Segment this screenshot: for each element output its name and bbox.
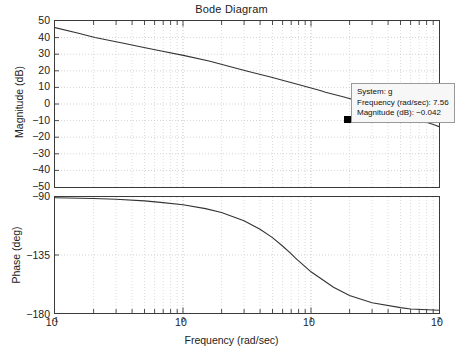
bode-diagram-figure: Bode Diagram <box>0 0 463 355</box>
frequency-tick: 100 <box>181 316 185 328</box>
frequency-tick: 102 <box>437 316 441 328</box>
magnitude-ytick: 40 <box>38 31 50 43</box>
phase-ytick: −90 <box>32 190 50 202</box>
magnitude-datatip: System: g Frequency (rad/sec): 7.56 Magn… <box>351 83 455 123</box>
magnitude-axis-title: Magnitude (dB) <box>13 47 25 157</box>
magnitude-data-marker[interactable] <box>344 116 351 123</box>
phase-axis-title: Phase (deg) <box>10 210 22 300</box>
magnitude-ytick: 50 <box>38 14 50 26</box>
magnitude-datatip-system: System: g <box>357 87 449 98</box>
magnitude-plot-axes: System: g Frequency (rad/sec): 7.56 Magn… <box>54 20 440 188</box>
magnitude-ytick: 10 <box>38 80 50 92</box>
magnitude-ytick: 20 <box>38 64 50 76</box>
magnitude-ytick: −10 <box>32 114 50 126</box>
phase-curve <box>55 198 439 310</box>
phase-ytick: −135 <box>26 249 50 261</box>
magnitude-datatip-frequency: Frequency (rad/sec): 7.56 <box>357 98 449 109</box>
magnitude-ytick: −40 <box>32 163 50 175</box>
phase-plot-canvas <box>55 197 439 313</box>
phase-plot-axes: System: g Frequency (rad/sec): 7.57 Phas… <box>54 196 440 314</box>
magnitude-ytick: 0 <box>44 97 50 109</box>
frequency-tick: 10-1 <box>52 316 59 328</box>
page-title: Bode Diagram <box>0 3 463 15</box>
magnitude-ytick: 30 <box>38 47 50 59</box>
frequency-tick-labels: 10-1 100 101 102 <box>0 316 463 334</box>
frequency-tick: 101 <box>309 316 313 328</box>
frequency-axis-title: Frequency (rad/sec) <box>0 334 463 346</box>
magnitude-ytick: −30 <box>32 147 50 159</box>
magnitude-datatip-value: Magnitude (dB): −0.042 <box>357 108 449 119</box>
magnitude-ytick: −20 <box>32 130 50 142</box>
